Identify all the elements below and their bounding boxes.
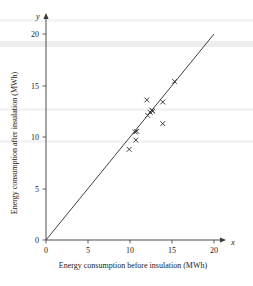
y-axis-arrow	[43, 13, 48, 19]
data-point	[160, 121, 165, 126]
x-tick-label-10: 10	[126, 246, 134, 255]
chart-canvas: 0 5 10 15 20 y Energy consumption after …	[0, 0, 253, 286]
x-axis: 0 5 10 15 20 x Energy consumption before…	[44, 237, 235, 270]
data-point	[160, 100, 165, 105]
x-tick-label-5: 5	[86, 246, 90, 255]
band-upper	[0, 41, 253, 47]
y-axis-letter: y	[35, 11, 40, 21]
y-tick-label-5: 5	[35, 185, 39, 194]
y-axis-title: Energy consumption after insulation (MWh…	[10, 71, 19, 214]
y-tick-label-20: 20	[31, 30, 39, 39]
x-axis-arrow	[220, 237, 226, 242]
band-mid-upper	[0, 108, 253, 111]
x-tick-label-15: 15	[168, 246, 176, 255]
data-point	[144, 98, 149, 103]
x-tick-label-20: 20	[210, 246, 218, 255]
x-axis-title: Energy consumption before insulation (MW…	[59, 261, 208, 270]
y-tick-label-15: 15	[31, 82, 39, 91]
scatter-chart: 0 5 10 15 20 y Energy consumption after …	[0, 0, 253, 286]
x-tick-label-0: 0	[44, 246, 48, 255]
reference-line	[46, 34, 214, 240]
y-tick-label-10: 10	[31, 133, 39, 142]
x-axis-letter: x	[230, 237, 235, 247]
y-tick-label-0: 0	[35, 236, 39, 245]
data-point	[127, 147, 132, 152]
